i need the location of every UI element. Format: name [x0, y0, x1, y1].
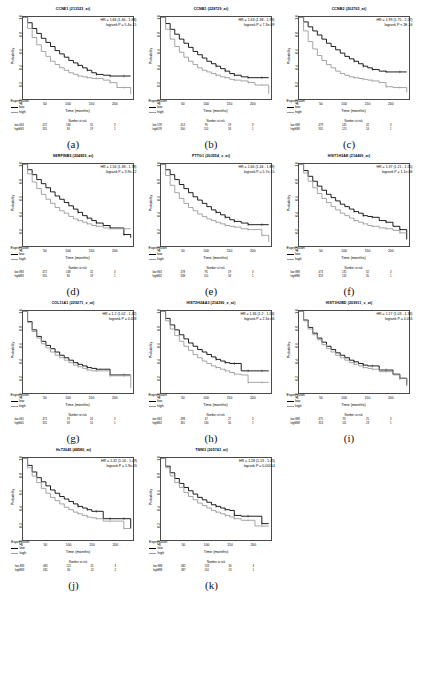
risk-value-low: 863 [157, 418, 161, 421]
risk-value-high: 355 [43, 275, 47, 278]
panel-cell: PTTG1 (203554_x_at)Probability0.00.20.40… [142, 153, 280, 300]
risk-value-low: 145 [342, 124, 346, 127]
x-axis-ticks: 050100150200 [298, 249, 410, 256]
plot-area: Probability0.00.20.40.60.81.0HR = 1.17 (… [283, 308, 416, 412]
risk-value-high: 19 [90, 128, 93, 131]
x-tick-label: 50 [319, 102, 323, 106]
x-tick-label: 100 [341, 249, 347, 253]
x-tick-label: 100 [203, 249, 209, 253]
legend-line-swatch-high [287, 406, 294, 407]
statistics-annotation: HR = 1.17 (1.03 - 1.33)logrank P = 0.016 [377, 312, 413, 323]
plot-canvas [22, 310, 134, 394]
panel-row: CCNE1 (213523_at)Probability0.00.20.40.6… [4, 6, 419, 153]
logrank-pvalue-text: logrank P = 3.9e-12 [101, 170, 137, 175]
x-tick-label: 200 [388, 249, 394, 253]
x-tick-label: 0 [297, 396, 299, 400]
x-tick-label: 50 [43, 543, 47, 547]
x-axis-ticks: 050100150200 [160, 543, 272, 550]
x-axis-label: Time (months) [160, 403, 272, 407]
risk-value-high: 883 [20, 569, 24, 572]
x-tick-label: 200 [250, 249, 256, 253]
risk-value-low: 578 [157, 124, 161, 127]
risk-value-high: 863 [157, 422, 161, 425]
risk-value-low: 95 [343, 418, 346, 421]
risk-value-low: 73 [67, 418, 70, 421]
x-axis-label: Time (months) [22, 109, 134, 113]
x-tick-label: 0 [21, 249, 23, 253]
plot-area: Probability0.00.20.40.60.81.0HR = 1.63 (… [145, 14, 278, 118]
x-tick-label: 0 [21, 102, 23, 106]
plot-area: Probability0.00.20.40.60.81.0HR = 1.32 (… [7, 455, 140, 559]
legend-line-swatch-high [287, 259, 294, 260]
number-at-risk-table: Number at risklow888482133303high8883871… [153, 560, 278, 573]
survival-panel-k: TNNI3 (205743_at)Probability0.00.20.40.6… [145, 447, 278, 577]
risk-value-high: 883 [19, 275, 23, 278]
legend-line-swatch-low [11, 254, 18, 255]
risk-value-low: 888 [295, 271, 299, 274]
risk-value-high: 18 [67, 422, 70, 425]
risk-value-low: 688 [295, 124, 299, 127]
risk-value-low: 483 [43, 565, 47, 568]
logrank-pvalue-text: logrank P = 5.7e-15 [239, 170, 275, 175]
plot-canvas [298, 163, 410, 247]
legend-line-swatch-high [149, 112, 156, 113]
panel-cell: TNNI3 (205743_at)Probability0.00.20.40.6… [143, 447, 281, 594]
panel-title: TNNI3 (205743_at) [145, 448, 278, 452]
number-at-risk-table: Number at risklow688479145323high6883311… [291, 119, 416, 132]
panel-title: PTTG1 (203554_x_at) [145, 154, 278, 158]
risk-value-high: 578 [157, 128, 161, 131]
x-axis-label: Time (months) [160, 109, 272, 113]
logrank-pvalue-text: logrank P = 0.016 [377, 317, 413, 322]
risk-value-low: 472 [43, 271, 47, 274]
number-at-risk-table: Number at risklow66547273163high66535518… [15, 413, 140, 426]
risk-value-low: 19 [228, 271, 231, 274]
legend-line-swatch-high [11, 553, 18, 554]
risk-value-high: 18 [228, 128, 231, 131]
panel-letter: (d) [67, 285, 80, 297]
panel-cell: HIST1H2AE (214469_at)Probability0.00.20.… [280, 153, 418, 300]
x-tick-label: 100 [341, 102, 347, 106]
risk-value-low: 3 [252, 418, 254, 421]
risk-value-high: 1 [252, 128, 254, 131]
risk-value-high: 1 [390, 422, 392, 425]
risk-value-high: 23 [366, 422, 369, 425]
risk-value-high: 888 [158, 569, 162, 572]
panel-cell: HIST1H2BD (209911_x_at)Probability0.00.2… [280, 300, 418, 447]
risk-value-low: 3 [114, 418, 116, 421]
panel-grid: CCNE1 (213523_at)Probability0.00.20.40.6… [4, 6, 419, 594]
risk-row-label-low: low [291, 418, 295, 421]
number-at-risk-table: Number at risklow57841495193high57830011… [153, 119, 278, 132]
panel-row: SERPINB5 (204855_at)Probability0.00.20.4… [4, 153, 419, 300]
legend-line-swatch-high [11, 112, 18, 113]
statistics-annotation: HR = 1.37 (1.21 - 1.55)logrank P = 1.1e-… [377, 165, 413, 176]
x-axis-ticks: 050100150200 [298, 396, 410, 403]
risk-value-high: 331 [319, 128, 323, 131]
x-tick-label: 100 [341, 396, 347, 400]
plot-area: Probability0.00.20.40.60.81.0HR = 1.28 (… [145, 455, 278, 559]
risk-value-high: 1 [114, 422, 116, 425]
risk-value-low: 16 [90, 418, 93, 421]
legend-line-swatch-low [11, 401, 18, 402]
risk-value-low: 47 [205, 418, 208, 421]
x-axis-ticks: 050100150200 [22, 102, 134, 109]
legend-line-swatch-high [149, 406, 156, 407]
legend-line-swatch-high [287, 112, 294, 113]
panel-title: HIST2H2AA3 (214290_x_at) [145, 301, 278, 305]
x-axis-ticks: 050100150200 [22, 249, 134, 256]
risk-value-high: 94 [67, 275, 70, 278]
statistics-annotation: HR = 1.2 (1.02 - 1.42)logrank P = 0.028 [103, 312, 137, 323]
x-tick-label: 200 [250, 396, 256, 400]
x-axis-label: Time (months) [22, 550, 134, 554]
panel-letter: (c) [343, 138, 355, 150]
x-tick-label: 0 [159, 543, 161, 547]
number-at-risk-table: Number at risklow888473131323high8883231… [291, 266, 416, 279]
x-tick-label: 50 [43, 396, 47, 400]
legend-line-swatch-high [149, 553, 156, 554]
plot-canvas [160, 457, 272, 541]
risk-value-high: 13 [229, 569, 232, 572]
survival-figure: CCNE1 (213523_at)Probability0.00.20.40.6… [0, 0, 423, 691]
x-tick-label: 50 [181, 543, 185, 547]
plot-canvas [160, 310, 272, 394]
risk-row-label-low: low [153, 124, 157, 127]
survival-panel-c: CCNB2 (202705_at)Probability0.00.20.40.6… [283, 6, 416, 136]
